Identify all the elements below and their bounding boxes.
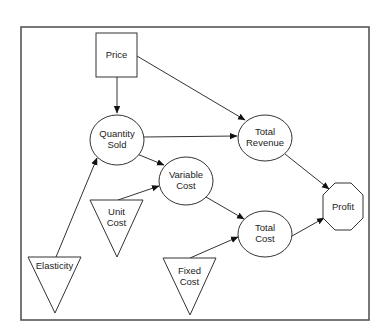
node-label-line-1: Total — [255, 126, 275, 137]
node-price[interactable]: Price — [96, 33, 137, 77]
node-total-revenue[interactable]: Total Revenue — [238, 115, 292, 161]
node-profit[interactable]: Profit — [323, 183, 363, 230]
node-label-line-2: Sold — [107, 139, 126, 150]
node-label-line-1: Total — [255, 222, 275, 233]
node-label: Price — [106, 49, 128, 60]
node-quantity-sold[interactable]: Quantity Sold — [90, 115, 144, 165]
node-total-cost[interactable]: Total Cost — [238, 211, 292, 257]
node-label-line-1: Fixed — [178, 265, 201, 276]
influence-diagram: Price Quantity Sold Total Revenue Variab… — [0, 0, 388, 334]
node-label-line-1: Unit — [108, 206, 125, 217]
node-label: Elasticity — [36, 260, 74, 271]
node-label-line-2: Cost — [255, 233, 275, 244]
node-label-line-2: Cost — [107, 217, 127, 228]
node-label-line-2: Cost — [180, 276, 200, 287]
node-label-line-1: Quantity — [99, 128, 135, 139]
node-label: Profit — [332, 201, 355, 212]
node-label-line-2: Revenue — [246, 137, 284, 148]
node-label-line-1: Variable — [169, 169, 203, 180]
node-variable-cost[interactable]: Variable Cost — [159, 157, 213, 205]
node-label-line-2: Cost — [176, 180, 196, 191]
